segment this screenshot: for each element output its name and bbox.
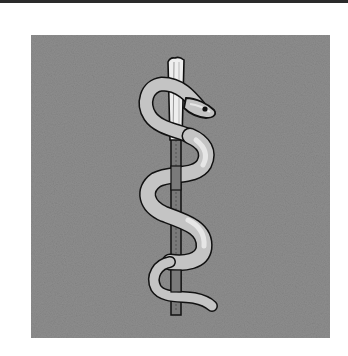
top-rule-divider	[0, 0, 348, 3]
snake-eye-icon	[202, 106, 207, 111]
figure-panel: Rod of Asclepius	[31, 35, 330, 338]
rod-of-asclepius-icon	[31, 35, 330, 338]
